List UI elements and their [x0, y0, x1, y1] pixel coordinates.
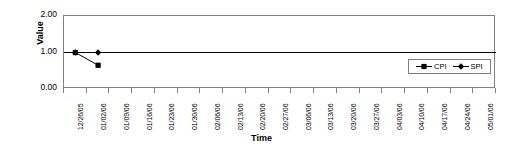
chart-legend: CPISPI: [408, 59, 491, 74]
x-axis-tick-label: 04/03/06: [396, 104, 403, 130]
legend-square-marker-icon: [416, 62, 432, 71]
x-axis-tick-label: 01/16/06: [146, 104, 153, 130]
plot-svg: [64, 16, 496, 89]
x-axis-tick-label: 04/17/06: [441, 104, 448, 130]
x-axis-tick-label: 02/27/06: [282, 104, 289, 130]
legend-label: CPI: [434, 62, 447, 71]
x-axis-tick-label: 03/06/06: [305, 104, 312, 130]
series-line: [75, 53, 98, 66]
x-axis-tick-label: 04/24/06: [464, 104, 471, 130]
legend-entry-spi[interactable]: SPI: [453, 62, 483, 71]
legend-label: SPI: [471, 62, 483, 71]
x-axis-tick-label: 03/20/06: [350, 104, 357, 130]
x-axis-tick-label: 01/09/06: [123, 104, 130, 130]
data-point-marker-diamond: [95, 49, 101, 55]
x-axis-tick-labels: 12/26/0501/02/0601/09/0601/16/0601/23/06…: [63, 93, 495, 133]
y-axis-tick-label: 2.00: [24, 9, 57, 19]
x-axis-tick-label: 02/13/06: [237, 104, 244, 130]
y-axis-tick-labels: 0.001.002.00: [24, 0, 57, 152]
x-axis-tick-label: 03/13/06: [327, 104, 334, 130]
x-axis-tick-label: 03/27/06: [373, 104, 380, 130]
x-axis-title: Time: [0, 133, 523, 143]
plot-area: [63, 15, 495, 88]
legend-diamond-marker-icon: [453, 62, 469, 71]
chart-container: Value 0.001.002.00 12/26/0501/02/0601/09…: [0, 0, 523, 152]
x-axis-tick-label: 02/20/06: [259, 104, 266, 130]
data-point-marker-square: [96, 63, 101, 68]
x-axis-tick-label: 04/10/06: [418, 104, 425, 130]
x-axis-tick: [495, 88, 496, 93]
data-point-marker-square: [421, 64, 426, 69]
x-axis-tick-label: 05/01/06: [487, 104, 494, 130]
x-axis-tick-label: 12/26/05: [77, 104, 84, 130]
x-axis-tick-label: 01/23/06: [168, 104, 175, 130]
y-axis-tick-label: 0.00: [24, 82, 57, 92]
legend-entry-cpi[interactable]: CPI: [416, 62, 447, 71]
y-axis-tick-label: 1.00: [24, 46, 57, 56]
x-axis-tick-label: 02/06/06: [214, 104, 221, 130]
data-point-marker-diamond: [457, 63, 463, 69]
x-axis-tick-label: 01/30/06: [191, 104, 198, 130]
x-axis-tick-label: 01/02/06: [100, 104, 107, 130]
